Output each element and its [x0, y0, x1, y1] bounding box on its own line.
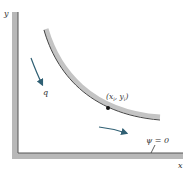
curved-wall-edge [44, 30, 160, 120]
flow-arrow-bottom [99, 127, 126, 133]
point-marker [106, 106, 110, 110]
streamline-pointer [151, 145, 155, 153]
curved-wall-shade [46, 29, 160, 117]
flow-diagram: y x q (xi, yi) ψ = 0 [0, 0, 191, 173]
x-axis-label: x [178, 161, 183, 170]
y-axis-wall [12, 12, 18, 158]
y-axis-label: y [3, 9, 9, 18]
streamline-label: ψ = 0 [146, 136, 169, 145]
point-label: (xi, yi) [106, 92, 128, 102]
flow-arrow-left [31, 58, 42, 84]
flow-label: q [43, 88, 48, 97]
x-axis-wall [12, 153, 183, 159]
